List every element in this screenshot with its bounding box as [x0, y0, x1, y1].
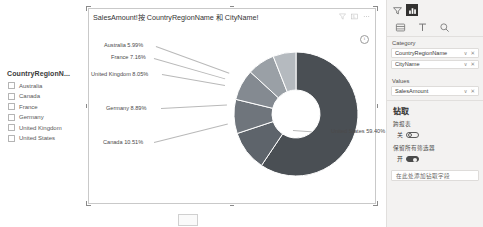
slicer-item-canada[interactable]: Canada [6, 92, 84, 101]
analytics-icon[interactable] [439, 22, 450, 33]
field-name: CountryRegionName [395, 50, 464, 56]
country-slicer[interactable]: CountryRegionN... Australia Canada Franc… [6, 70, 84, 144]
toggle-knob [413, 158, 417, 162]
slicer-item-label: Australia [19, 83, 42, 89]
format-icon[interactable] [417, 22, 428, 33]
slicer-item-australia[interactable]: Australia [6, 81, 84, 90]
chart-title: SalesAmount!按 CountryRegionName 和 CityNa… [93, 12, 258, 22]
data-label-australia: Australia 5.99% [104, 42, 143, 48]
fields-icon[interactable] [395, 22, 406, 33]
slicer-item-united-states[interactable]: United States [6, 134, 84, 143]
field-name: SalesAmount [395, 88, 464, 94]
remove-field-icon[interactable]: ✕ [470, 61, 475, 67]
viz-pane-icon-row [387, 18, 483, 37]
drillthrough-drop-zone[interactable]: 在此处添加钻取字段 [391, 170, 479, 181]
checkbox-icon[interactable] [8, 93, 15, 100]
report-canvas: CountryRegionN... Australia Canada Franc… [0, 0, 483, 227]
field-name: CityName [395, 61, 464, 67]
filter-icon[interactable] [339, 13, 346, 20]
slicer-item-label: United Kingdom [19, 125, 62, 131]
leader-line-france [154, 58, 225, 79]
data-label-united-states: United States 59.40% [331, 128, 385, 134]
filters-tab[interactable] [391, 4, 403, 16]
donut-svg[interactable] [230, 48, 362, 180]
visualizations-pane: Category CountryRegionName ∨ ✕ CityName … [386, 0, 483, 227]
remove-field-icon[interactable]: ✕ [470, 50, 475, 56]
slicer-item-united-kingdom[interactable]: United Kingdom [6, 123, 84, 132]
resize-handle-top-left[interactable] [86, 6, 91, 11]
slicer-item-label: France [19, 104, 38, 110]
data-label-united-kingdom: United Kingdom 8.05% [91, 71, 148, 77]
field-pill-salesamount[interactable]: SalesAmount ∨ ✕ [391, 86, 479, 96]
field-pill-cityname[interactable]: CityName ∨ ✕ [391, 60, 479, 70]
focus-mode-icon[interactable] [351, 13, 358, 20]
checkbox-icon[interactable] [8, 124, 15, 131]
field-pill-countryregionname[interactable]: CountryRegionName ∨ ✕ [391, 48, 479, 58]
slicer-item-germany[interactable]: Germany [6, 113, 84, 122]
slicer-item-france[interactable]: France [6, 102, 84, 111]
chevron-down-icon[interactable]: ∨ [464, 88, 468, 94]
cross-report-state-label: 关 [397, 130, 403, 139]
cross-report-toggle-row[interactable]: 关 [387, 129, 483, 141]
cross-report-toggle[interactable] [406, 132, 419, 138]
drillthrough-heading: 钻取 [387, 100, 483, 117]
checkbox-icon[interactable] [8, 114, 15, 121]
values-well-label: Values [387, 71, 483, 86]
slicer-item-label: United States [19, 135, 55, 141]
slicer-title: CountryRegionN... [6, 70, 84, 77]
page-tab-thumbnail[interactable] [178, 214, 198, 226]
slicer-item-label: Canada [19, 93, 40, 99]
checkbox-icon[interactable] [8, 135, 15, 142]
pane-tab-strip [387, 0, 483, 18]
keep-filters-toggle[interactable] [406, 156, 419, 162]
resize-handle-top-center[interactable] [230, 6, 234, 11]
visual-header-icons [339, 13, 370, 20]
leader-line-germany [161, 105, 227, 109]
resize-handle-top-right[interactable] [373, 6, 378, 11]
checkbox-icon[interactable] [8, 103, 15, 110]
chart-plot-area: Australia 5.99% France 7.16% United King… [88, 26, 376, 204]
data-label-france: France 7.16% [111, 54, 146, 60]
keep-filters-state-label: 开 [397, 154, 403, 163]
more-options-icon[interactable] [363, 13, 370, 20]
category-well-label: Category [387, 37, 483, 48]
chevron-down-icon[interactable]: ∨ [464, 61, 468, 67]
toggle-knob [408, 133, 412, 137]
slicer-item-label: Germany [19, 114, 44, 120]
chevron-down-icon[interactable]: ∨ [464, 50, 468, 56]
keep-filters-toggle-row[interactable]: 开 [387, 153, 483, 165]
checkbox-icon[interactable] [8, 82, 15, 89]
remove-field-icon[interactable]: ✕ [470, 88, 475, 94]
data-label-canada: Canada 10.51% [103, 139, 143, 145]
data-label-germany: Germany 8.89% [106, 105, 146, 111]
keep-filters-label: 保留所有筛选器 [387, 141, 483, 153]
visualizations-tab[interactable] [406, 4, 418, 16]
donut-chart-visual[interactable]: SalesAmount!按 CountryRegionName 和 CityNa… [88, 8, 376, 204]
donut-graphic[interactable] [230, 48, 362, 180]
leader-line-canada [154, 124, 228, 143]
cross-report-label: 跨报表 [387, 117, 483, 129]
